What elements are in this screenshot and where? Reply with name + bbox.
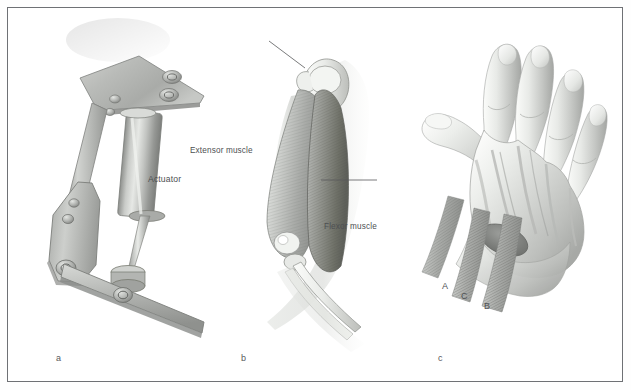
panel-c-hand: c xyxy=(400,0,610,390)
panel-b-arm-muscles: b xyxy=(205,0,405,390)
hand-illustration xyxy=(400,0,610,390)
panel-a-mechanical-linkage: a xyxy=(8,0,208,390)
tendon-label-c: C xyxy=(461,291,468,301)
arm-muscle-illustration xyxy=(205,0,405,390)
extensor-muscle-label: Extensor muscle xyxy=(190,146,253,155)
panel-a-letter: a xyxy=(56,353,61,363)
panel-b-letter: b xyxy=(241,353,246,363)
panel-c-letter: c xyxy=(438,353,443,363)
upper-bracket-plate xyxy=(80,56,204,110)
bolt-base-bar xyxy=(114,288,133,303)
flexor-muscle-label: Flexor muscle xyxy=(324,222,377,231)
actuator-label: Actuator xyxy=(148,174,181,184)
extensor-leader-line xyxy=(269,41,305,68)
tendon-label-a: A xyxy=(442,281,448,291)
mechanical-linkage-illustration xyxy=(8,0,208,390)
actuator-cylinder xyxy=(117,108,165,222)
tendon-label-b: B xyxy=(484,301,490,311)
figure-root: a xyxy=(0,0,631,390)
piston-rod xyxy=(128,216,150,272)
